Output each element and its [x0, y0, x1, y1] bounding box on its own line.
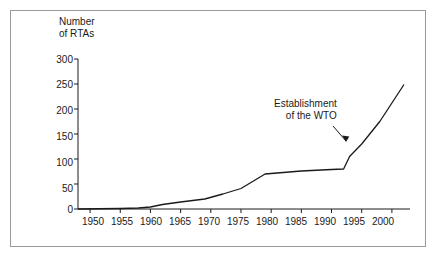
x-tick-marks [90, 209, 392, 213]
chart-plot-area [0, 0, 437, 257]
y-tick-marks [74, 59, 78, 209]
annotation-arrow-icon [333, 126, 349, 142]
data-line-rtas [78, 85, 404, 210]
